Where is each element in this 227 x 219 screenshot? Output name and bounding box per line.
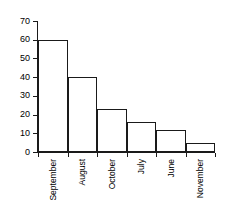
y-axis-tick-label: 0 [6, 148, 30, 157]
bar [97, 109, 127, 152]
y-axis-tick-label: 30 [6, 91, 30, 100]
bar [38, 40, 68, 152]
bar [186, 143, 216, 152]
y-axis-tick-label-text: 50 [6, 54, 30, 63]
y-axis-tick-label: 10 [6, 129, 30, 138]
x-axis-category-label: June [156, 159, 186, 217]
x-axis-category-label: July [126, 159, 156, 217]
bar [156, 130, 186, 152]
x-axis-tick [156, 153, 157, 157]
x-axis-tick [68, 153, 69, 157]
x-axis-category-label-text: August [78, 159, 87, 185]
x-axis-tick [215, 153, 216, 157]
bar-chart: 010203040506070 SeptemberAugustOctoberJu… [0, 0, 227, 219]
y-axis-tick-label-text: 60 [6, 35, 30, 44]
bar [127, 122, 157, 152]
y-axis-tick-label-text: 70 [6, 17, 30, 26]
x-axis-category-label: September [38, 159, 68, 217]
y-axis-tick-label: 20 [6, 110, 30, 119]
x-axis-tick [97, 153, 98, 157]
x-axis-tick [127, 153, 128, 157]
x-axis-tick [38, 153, 39, 157]
y-axis-tick-label: 70 [6, 17, 30, 26]
y-axis-tick-label-text: 0 [6, 148, 30, 157]
y-axis-tick-label-text: 40 [6, 73, 30, 82]
y-axis-tick-label-text: 10 [6, 129, 30, 138]
bar [68, 77, 98, 152]
bars-layer [38, 21, 215, 152]
y-axis-tick-label: 50 [6, 54, 30, 63]
x-axis-category-label-text: September [48, 159, 57, 201]
y-axis-tick-label: 40 [6, 73, 30, 82]
y-axis-tick-label: 60 [6, 35, 30, 44]
x-axis-category-label: October [97, 159, 127, 217]
x-axis-category-label-text: October [107, 159, 116, 189]
x-axis-category-label-text: July [137, 159, 146, 174]
x-axis-category-label-text: November [196, 159, 205, 198]
y-axis-tick-label-text: 20 [6, 110, 30, 119]
x-axis-category-label-text: June [166, 159, 175, 177]
y-axis-tick-label-text: 30 [6, 91, 30, 100]
x-axis-category-label: August [67, 159, 97, 217]
x-axis-tick [186, 153, 187, 157]
x-axis-category-label: November [185, 159, 215, 217]
